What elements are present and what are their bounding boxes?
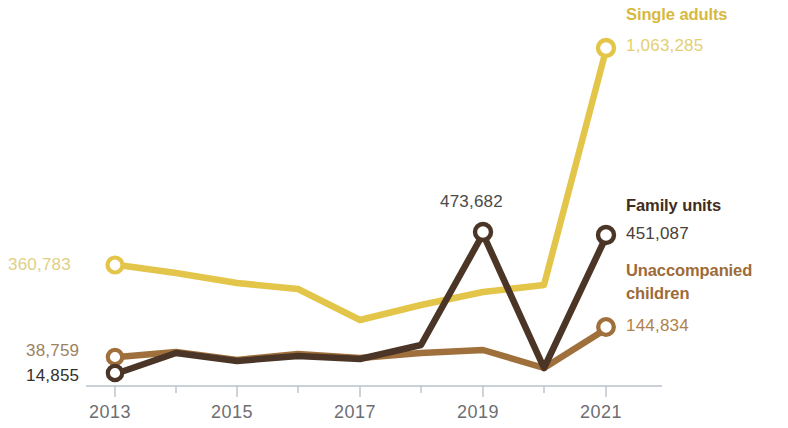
x-tick-label-2019: 2019 <box>457 402 499 422</box>
legend-value-unaccompanied-children: 144,834 <box>626 316 689 335</box>
annotation-family-units-2019-peak: 473,682 <box>440 192 503 211</box>
x-tick-label-2013: 2013 <box>89 402 131 422</box>
start-value-single-adults: 360,783 <box>8 255 71 274</box>
series-marker-single-adults-2013 <box>108 258 123 273</box>
legend-label-family-units: Family units <box>626 196 721 214</box>
x-tick-label-2015: 2015 <box>211 402 253 422</box>
series-line-single-adults <box>118 50 606 320</box>
series-marker-unaccompanied-2013 <box>108 350 122 364</box>
x-tick-label-2017: 2017 <box>334 402 376 422</box>
immigration-encounters-line-chart: Single adults 1,063,285 Family units 451… <box>0 0 788 428</box>
legend-label-unaccompanied-children-line2: children <box>626 284 689 302</box>
series-line-family-units <box>118 234 606 373</box>
legend-label-single-adults: Single adults <box>626 5 727 23</box>
start-value-unaccompanied-children: 38,759 <box>26 341 79 360</box>
start-value-family-units: 14,855 <box>26 366 79 385</box>
x-axis-ticks <box>115 386 606 397</box>
legend-value-family-units: 451,087 <box>626 224 689 243</box>
legend-value-single-adults: 1,063,285 <box>626 36 703 55</box>
series-marker-family-units-2019-peak <box>475 224 491 240</box>
series-marker-single-adults-2021 <box>598 40 614 56</box>
series-marker-family-units-2021 <box>598 227 614 243</box>
legend-label-unaccompanied-children-line1: Unaccompanied <box>626 261 752 279</box>
series-marker-family-units-2013 <box>108 366 122 380</box>
x-tick-label-2021: 2021 <box>580 402 622 422</box>
series-marker-unaccompanied-2021 <box>598 319 614 335</box>
